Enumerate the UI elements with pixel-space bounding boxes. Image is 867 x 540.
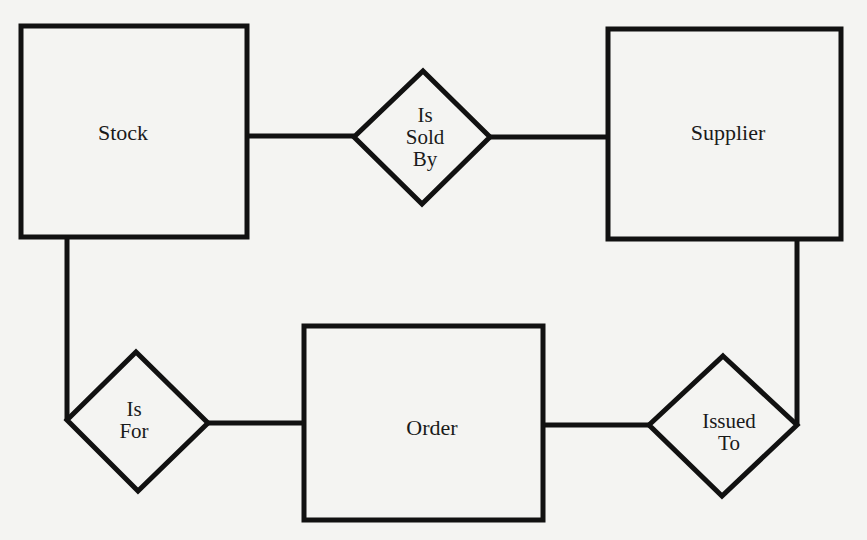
diagram-canvas	[0, 0, 867, 540]
entity-supplier-label: Supplier	[691, 122, 766, 144]
relationship-is-for-label: Is For	[119, 398, 148, 442]
relationship-issued-to-label: Issued To	[702, 410, 756, 454]
entity-order-label: Order	[406, 417, 457, 439]
entity-stock-label: Stock	[98, 122, 148, 144]
relationship-is-sold-by-label: Is Sold By	[406, 104, 445, 170]
er-diagram: Stock Supplier Order Is Sold By Is For I…	[0, 0, 867, 540]
